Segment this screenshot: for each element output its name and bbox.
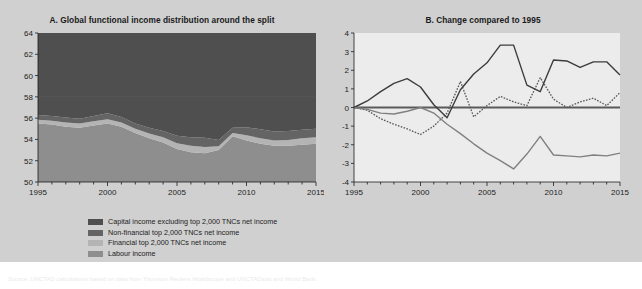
svg-text:0: 0 — [345, 104, 350, 113]
legend-label: Non-financial top 2,000 TNCs net income — [108, 228, 239, 239]
svg-text:-1: -1 — [342, 122, 350, 131]
panel-a-legend: Capital income excluding top 2,000 TNCs … — [88, 217, 277, 259]
svg-text:2: 2 — [345, 66, 350, 75]
panel-a-legend-item: Financial top 2,000 TNCs net income — [88, 238, 277, 249]
svg-text:-2: -2 — [342, 141, 350, 150]
svg-text:52: 52 — [24, 157, 33, 166]
svg-text:-4: -4 — [342, 178, 350, 187]
figure-container: A. Global functional income distribution… — [0, 0, 642, 262]
panel-a: A. Global functional income distribution… — [0, 0, 324, 262]
svg-text:2015: 2015 — [307, 188, 324, 197]
svg-text:56: 56 — [24, 114, 33, 123]
svg-text:4: 4 — [345, 29, 350, 38]
panel-a-legend-item: Non-financial top 2,000 TNCs net income — [88, 228, 277, 239]
legend-label: Capital income excluding top 2,000 TNCs … — [108, 217, 277, 228]
panel-a-legend-item: Labour income — [88, 249, 277, 260]
svg-text:2015: 2015 — [611, 188, 629, 197]
svg-text:2005: 2005 — [478, 188, 496, 197]
svg-text:1995: 1995 — [29, 188, 47, 197]
legend-label: Financial top 2,000 TNCs net income — [108, 238, 226, 249]
svg-text:2010: 2010 — [545, 188, 563, 197]
svg-text:2010: 2010 — [238, 188, 256, 197]
svg-text:2005: 2005 — [168, 188, 186, 197]
legend-color-swatch — [88, 251, 103, 257]
svg-text:62: 62 — [24, 50, 33, 59]
svg-text:1: 1 — [345, 85, 350, 94]
svg-text:3: 3 — [345, 48, 350, 57]
legend-color-swatch — [88, 219, 103, 225]
svg-text:64: 64 — [24, 29, 33, 38]
svg-text:2000: 2000 — [99, 188, 117, 197]
legend-color-swatch — [88, 230, 103, 236]
svg-text:-3: -3 — [342, 159, 350, 168]
svg-text:54: 54 — [24, 135, 33, 144]
panel-a-legend-item: Capital income excluding top 2,000 TNCs … — [88, 217, 277, 228]
legend-label: Labour income — [108, 249, 156, 260]
svg-text:50: 50 — [24, 178, 33, 187]
svg-text:1995: 1995 — [345, 188, 363, 197]
svg-text:2000: 2000 — [412, 188, 430, 197]
legend-color-swatch — [88, 240, 103, 246]
svg-text:58: 58 — [24, 93, 33, 102]
panel-b-plot: -4-3-2-10123419952000200520102015 — [324, 0, 642, 262]
source-note: Source: UNCTAD calculations based on dat… — [8, 276, 636, 282]
svg-text:60: 60 — [24, 72, 33, 81]
panel-b: B. Change compared to 1995 -4-3-2-101234… — [324, 0, 642, 262]
